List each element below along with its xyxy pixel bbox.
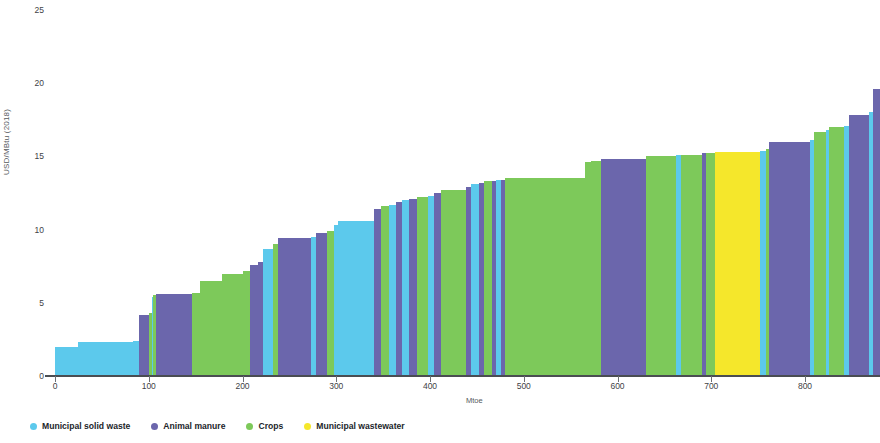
bar-segment: [769, 142, 809, 376]
bar-segment: [156, 294, 192, 376]
x-tick-label: 0: [35, 381, 75, 391]
x-tick-label: 100: [129, 381, 169, 391]
legend-item-3[interactable]: Municipal wastewater: [304, 421, 404, 431]
chart-legend: Municipal solid wasteAnimal manureCropsM…: [30, 421, 405, 431]
bar-segment: [78, 342, 132, 376]
legend-label: Municipal wastewater: [316, 421, 404, 431]
x-axis-line: [45, 375, 880, 377]
bar-segment: [715, 152, 760, 376]
legend-label: Crops: [258, 421, 283, 431]
x-tick-label: 800: [785, 381, 825, 391]
bar-segment: [389, 205, 397, 376]
bar-segment: [278, 238, 311, 376]
x-tick-label: 400: [410, 381, 450, 391]
bar-segment: [200, 281, 222, 376]
bar-segment: [327, 231, 335, 376]
legend-label: Animal manure: [163, 421, 225, 431]
bar-segment: [434, 193, 442, 376]
bar-segment: [417, 197, 428, 376]
legend-item-1[interactable]: Animal manure: [151, 421, 225, 431]
bar-segment: [222, 274, 243, 376]
bar-segment: [706, 153, 715, 376]
bar-segment: [646, 156, 676, 376]
bar-segment: [139, 315, 148, 376]
x-tick-label: 500: [504, 381, 544, 391]
x-tick-label: 200: [223, 381, 263, 391]
bar-segment: [601, 159, 646, 376]
legend-swatch-icon: [304, 423, 311, 430]
legend-swatch-icon: [246, 423, 253, 430]
bar-segment: [338, 221, 374, 376]
bar-segment: [591, 161, 600, 376]
legend-item-2[interactable]: Crops: [246, 421, 283, 431]
x-tick-label: 700: [691, 381, 731, 391]
bar-segment: [409, 199, 417, 376]
bar-segment: [374, 209, 382, 376]
bar-segment: [250, 265, 258, 376]
bar-segment: [55, 347, 78, 376]
bar-segment: [829, 127, 844, 376]
bar-segment: [484, 181, 492, 376]
watermark-logo-secondary: [258, 190, 294, 226]
bar-segment: [316, 233, 327, 376]
x-tick-label: 600: [598, 381, 638, 391]
bar-segment: [441, 190, 465, 376]
x-axis-title: Mtoe: [466, 396, 483, 405]
bar-segment: [849, 115, 869, 376]
x-tick-label: 300: [316, 381, 356, 391]
legend-item-0[interactable]: Municipal solid waste: [30, 421, 130, 431]
legend-swatch-icon: [30, 423, 37, 430]
legend-label: Municipal solid waste: [42, 421, 130, 431]
plot-area: fotophire fotophire: [0, 0, 880, 376]
bar-segment: [681, 155, 702, 376]
chart-container: USD/MBtu (2018) 0510152025 f: [0, 0, 880, 443]
bar-segment: [192, 293, 200, 376]
bar-segment: [381, 206, 389, 376]
bar-segment: [873, 89, 880, 376]
bar-segment: [814, 132, 825, 376]
bar-segment: [263, 249, 272, 376]
bar-segment: [402, 200, 410, 376]
bar-segment: [243, 271, 251, 376]
bar-segment: [471, 184, 479, 376]
bar-segment: [505, 178, 585, 376]
legend-swatch-icon: [151, 423, 158, 430]
